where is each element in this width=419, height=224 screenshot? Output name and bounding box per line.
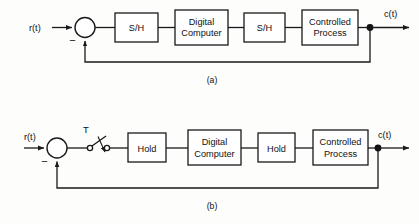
output-label-b: c(t) bbox=[378, 130, 391, 140]
feedback-sign-b: − bbox=[41, 155, 47, 167]
label-controlled-process-a-line2: Process bbox=[313, 28, 347, 38]
label-digital-computer-a-line1: Digital bbox=[189, 17, 215, 27]
summing-junction-a bbox=[75, 18, 95, 38]
sampler-right-contact bbox=[104, 145, 109, 150]
label-digital-computer-b-line1: Digital bbox=[202, 137, 228, 147]
label-digital-computer-a-line2: Computer bbox=[181, 28, 221, 38]
label-sample-hold-input-a: S/H bbox=[129, 23, 144, 33]
label-controlled-process-b-line2: Process bbox=[324, 149, 358, 159]
figure-canvas: r(t) c(t) − S/H Digital Computer S/H Con… bbox=[0, 0, 419, 224]
summing-junction-b bbox=[47, 138, 67, 158]
caption-b: (b) bbox=[207, 201, 218, 211]
sampler-period-label: T bbox=[83, 124, 89, 135]
sampler-switch-b: T bbox=[83, 124, 110, 152]
label-controlled-process-a-line1: Controlled bbox=[309, 17, 351, 27]
label-sample-hold-output-a: S/H bbox=[257, 23, 272, 33]
input-label-b: r(t) bbox=[24, 132, 36, 142]
label-hold-input-b: Hold bbox=[138, 144, 157, 154]
input-label-a: r(t) bbox=[29, 23, 41, 33]
sampler-left-contact bbox=[87, 145, 92, 150]
block-digital-computer-b bbox=[188, 130, 241, 165]
label-digital-computer-b-line2: Computer bbox=[194, 149, 234, 159]
panel-a: r(t) c(t) − S/H Digital Computer S/H Con… bbox=[29, 9, 409, 85]
block-controlled-process-b bbox=[313, 130, 368, 165]
output-label-a: c(t) bbox=[384, 9, 397, 19]
label-controlled-process-b-line1: Controlled bbox=[320, 137, 362, 147]
caption-a: (a) bbox=[207, 75, 218, 85]
panel-b: T r(t) c(t) − Hold bbox=[24, 124, 409, 211]
block-diagram-svg: r(t) c(t) − S/H Digital Computer S/H Con… bbox=[0, 0, 419, 224]
label-hold-output-b: Hold bbox=[267, 144, 286, 154]
feedback-sign-a: − bbox=[69, 34, 75, 46]
